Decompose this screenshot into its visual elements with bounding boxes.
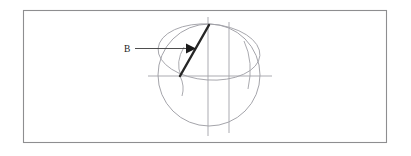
vector-diagram-canvas: B — [0, 0, 411, 156]
figure-container: B — [0, 0, 411, 156]
vector-label-b: B — [124, 44, 130, 54]
